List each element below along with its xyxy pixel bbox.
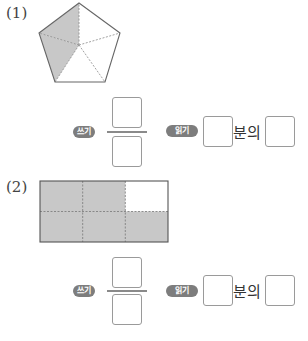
read-first-input-box[interactable]	[203, 275, 233, 306]
denominator-input-box[interactable]	[112, 294, 142, 325]
numerator-input-box[interactable]	[112, 97, 142, 128]
read-first-input-box[interactable]	[203, 116, 233, 147]
read-second-input-box[interactable]	[265, 275, 295, 306]
numerator-input-box[interactable]	[112, 257, 142, 288]
read-badge: 읽기	[166, 285, 198, 297]
read-badge: 읽기	[166, 125, 198, 137]
write-badge: 쓰기	[73, 126, 95, 138]
read-second-input-box[interactable]	[265, 116, 295, 147]
grid-unshaded-cell	[125, 181, 168, 212]
write-badge: 쓰기	[73, 285, 95, 297]
fraction-bar	[107, 290, 147, 292]
pentagon-figure	[0, 0, 160, 95]
denominator-input-box[interactable]	[112, 136, 142, 167]
problem-2-number: (2)	[6, 178, 27, 196]
fraction-bar	[107, 131, 147, 133]
read-connector-text: 분의	[233, 280, 261, 301]
read-connector-text: 분의	[233, 121, 261, 142]
rectangle-grid-figure	[38, 179, 172, 245]
